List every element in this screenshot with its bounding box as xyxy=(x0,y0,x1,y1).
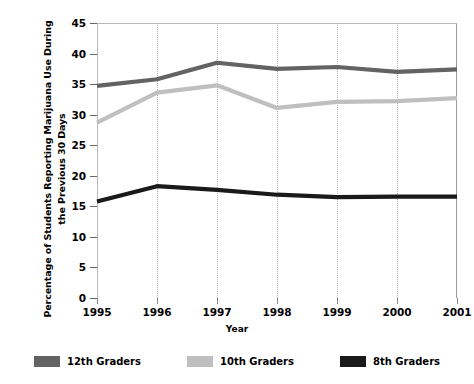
y-tick-label: 10 xyxy=(58,232,86,242)
legend-item[interactable]: 10th Graders xyxy=(187,356,294,367)
x-tick-mark xyxy=(97,298,98,304)
y-tick-mark xyxy=(90,115,97,116)
x-tick-label: 1996 xyxy=(127,306,187,318)
legend-item[interactable]: 8th Graders xyxy=(340,356,440,367)
y-tick-label: 45 xyxy=(58,18,86,28)
y-tick-label: 30 xyxy=(58,110,86,120)
x-tick-mark xyxy=(217,298,218,304)
legend-label: 10th Graders xyxy=(220,356,294,367)
legend-swatch-icon xyxy=(34,356,60,367)
y-tick-mark xyxy=(90,176,97,177)
y-tick-label: 35 xyxy=(58,79,86,89)
x-tick-label: 1998 xyxy=(247,306,307,318)
gridline-vertical xyxy=(397,23,399,298)
y-tick-mark xyxy=(90,145,97,146)
y-tick-mark xyxy=(90,23,97,24)
y-tick-label: 20 xyxy=(58,171,86,181)
chart-legend: 12th Graders10th Graders8th Graders xyxy=(0,356,474,367)
y-tick-mark xyxy=(90,206,97,207)
y-tick-mark xyxy=(90,267,97,268)
x-tick-label: 1995 xyxy=(67,306,127,318)
y-tick-mark xyxy=(90,298,97,299)
y-axis-title: Percentage of Students Reporting Marijua… xyxy=(41,19,69,319)
y-tick-mark xyxy=(90,84,97,85)
legend-label: 12th Graders xyxy=(67,356,141,367)
y-tick-label: 25 xyxy=(58,140,86,150)
legend-swatch-icon xyxy=(187,356,213,367)
x-tick-label: 2001 xyxy=(427,306,474,318)
x-tick-label: 1997 xyxy=(187,306,247,318)
gridline-vertical xyxy=(337,23,339,298)
y-tick-label: 40 xyxy=(58,49,86,59)
gridline-vertical xyxy=(277,23,279,298)
line-chart-figure: Percentage of Students Reporting Marijua… xyxy=(0,0,474,384)
y-tick-label: 5 xyxy=(58,262,86,272)
y-tick-label: 15 xyxy=(58,201,86,211)
x-tick-label: 1999 xyxy=(307,306,367,318)
legend-swatch-icon xyxy=(340,356,366,367)
x-tick-mark xyxy=(397,298,398,304)
x-axis-title: Year xyxy=(0,324,474,334)
x-tick-mark xyxy=(277,298,278,304)
x-tick-mark xyxy=(157,298,158,304)
legend-item[interactable]: 12th Graders xyxy=(34,356,141,367)
legend-label: 8th Graders xyxy=(373,356,440,367)
y-tick-mark xyxy=(90,237,97,238)
x-tick-mark xyxy=(337,298,338,304)
gridline-vertical xyxy=(217,23,219,298)
y-tick-label: 0 xyxy=(58,293,86,303)
x-tick-mark xyxy=(457,298,458,304)
y-tick-mark xyxy=(90,54,97,55)
x-tick-label: 2000 xyxy=(367,306,427,318)
gridline-vertical xyxy=(157,23,159,298)
